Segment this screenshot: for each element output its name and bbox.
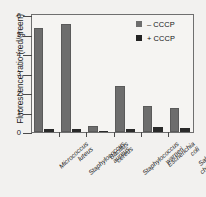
y-axis-tick-label: 6 [17,11,21,20]
bar-group [32,15,59,132]
y-axis-tick-label: 1 [17,108,21,117]
legend-item-minus-cccp: – CCCP [136,18,175,30]
bar-plus-cccp [180,128,190,132]
bar-chart-figure: Fluorescence ratio (red/green) 0123456 –… [0,0,206,197]
bar-minus-cccp [170,108,180,132]
y-axis-tick-mark [23,114,32,115]
y-axis-tick-mark [23,94,32,95]
y-axis-tick-label: 3 [17,69,21,78]
chart-legend: – CCCP + CCCP [136,18,175,46]
legend-swatch-plus-cccp [136,35,142,41]
x-axis-tick-mark [141,132,142,137]
bar-minus-cccp [88,126,98,132]
y-axis-tick-label: 0 [17,128,21,137]
y-axis-tick-mark [23,133,32,134]
x-axis-tick-mark [168,132,169,137]
bar-plus-cccp [153,127,163,132]
legend-label-minus-cccp: – CCCP [147,20,175,29]
legend-item-plus-cccp: + CCCP [136,32,175,44]
bar-minus-cccp [143,106,153,132]
x-axis-tick-mark [86,132,87,137]
y-axis-tick-label: 4 [17,50,21,59]
x-axis-tick-mark [59,132,60,137]
x-axis-tick-mark [114,132,115,137]
legend-swatch-minus-cccp [136,21,142,27]
y-axis-tick-label: 2 [17,89,21,98]
bar-group [86,15,113,132]
y-axis-tick-label: 5 [17,30,21,39]
bar-plus-cccp [44,129,54,132]
bar-minus-cccp [34,28,44,132]
bar-group [59,15,86,132]
y-axis-tick-mark [23,36,32,37]
y-axis-tick-mark [23,75,32,76]
y-axis-tick-mark [23,16,32,17]
bar-plus-cccp [126,129,136,132]
legend-label-plus-cccp: + CCCP [147,34,175,43]
bar-minus-cccp [115,86,125,132]
bar-plus-cccp [99,131,109,133]
bar-plus-cccp [72,129,82,132]
bar-minus-cccp [61,24,71,132]
y-axis-tick-mark [23,55,32,56]
